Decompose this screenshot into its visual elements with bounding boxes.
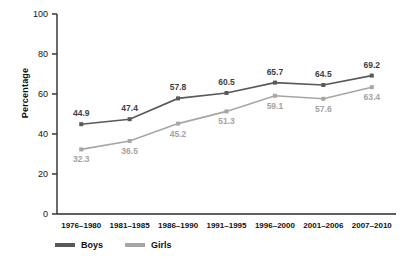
data-value-label: 63.4 xyxy=(364,92,381,102)
y-tick-label: 60 xyxy=(38,89,48,99)
data-value-label: 57.8 xyxy=(170,82,187,92)
data-point-marker xyxy=(321,97,325,101)
data-value-label: 65.7 xyxy=(267,67,284,77)
data-value-label: 57.6 xyxy=(315,104,332,114)
data-point-marker xyxy=(321,83,325,87)
data-value-label: 60.5 xyxy=(218,77,235,87)
data-value-label: 64.5 xyxy=(315,69,332,79)
data-point-marker xyxy=(370,85,374,89)
x-tick-label: 1976–1980 xyxy=(61,221,102,230)
y-tick-label: 100 xyxy=(33,9,48,19)
data-point-marker xyxy=(273,94,277,98)
data-value-label: 45.2 xyxy=(170,129,187,139)
data-value-label: 36.5 xyxy=(121,146,138,156)
chart-legend: Boys Girls xyxy=(55,240,172,250)
x-axis-tick-labels: 1976–19801981–19851986–19901991–19951996… xyxy=(61,221,392,230)
x-tick-label: 1981–1985 xyxy=(110,221,151,230)
data-point-marker xyxy=(370,74,374,78)
line-chart: Percentage 020406080100 1976–19801981–19… xyxy=(0,0,405,264)
data-point-marker xyxy=(225,91,229,95)
data-point-marker xyxy=(176,122,180,126)
data-value-label: 51.3 xyxy=(218,116,235,126)
x-tick-label: 1986–1990 xyxy=(158,221,199,230)
y-tick-label: 40 xyxy=(38,129,48,139)
x-tick-label: 2001–2006 xyxy=(303,221,344,230)
data-point-marker xyxy=(79,147,83,151)
x-tick-label: 2007–2010 xyxy=(352,221,393,230)
y-axis-ticks: 020406080100 xyxy=(33,9,57,219)
legend-label-girls: Girls xyxy=(151,240,172,250)
data-value-label: 47.4 xyxy=(121,103,138,113)
data-point-marker xyxy=(128,139,132,143)
x-tick-label: 1996–2000 xyxy=(255,221,296,230)
data-point-marker xyxy=(176,96,180,100)
legend-swatch-girls xyxy=(125,243,145,247)
data-value-label: 44.9 xyxy=(73,108,90,118)
data-point-marker xyxy=(225,109,229,113)
data-point-marker xyxy=(79,122,83,126)
chart-plot-area: 020406080100 1976–19801981–19851986–1990… xyxy=(0,0,405,264)
legend-item-girls[interactable]: Girls xyxy=(125,240,172,250)
y-tick-label: 20 xyxy=(38,169,48,179)
data-point-marker xyxy=(128,117,132,121)
legend-label-boys: Boys xyxy=(81,240,103,250)
legend-swatch-boys xyxy=(55,243,75,247)
x-tick-label: 1991–1995 xyxy=(206,221,247,230)
y-tick-label: 80 xyxy=(38,49,48,59)
data-value-label: 59.1 xyxy=(267,101,284,111)
legend-item-boys[interactable]: Boys xyxy=(55,240,103,250)
data-point-marker xyxy=(273,81,277,85)
data-value-label: 32.3 xyxy=(73,154,90,164)
y-tick-label: 0 xyxy=(43,209,48,219)
data-value-label: 69.2 xyxy=(364,60,381,70)
